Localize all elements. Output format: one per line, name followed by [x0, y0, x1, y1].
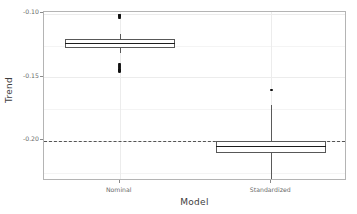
y-tick-label: -0.20	[14, 135, 39, 144]
median-line	[216, 146, 326, 148]
y-tick-label-text: -0.20	[14, 135, 39, 142]
y-tick-label: -0.10	[14, 8, 39, 17]
median-line	[65, 43, 175, 45]
gridline-major	[44, 77, 345, 78]
outlier-point	[118, 70, 121, 73]
gridline-minor	[44, 109, 345, 110]
x-axis-title: Model	[43, 197, 346, 207]
gridline-major	[44, 14, 345, 15]
whisker-upper	[271, 105, 272, 141]
x-tick-mark	[270, 180, 271, 183]
x-tick-label: Standardized	[225, 186, 315, 193]
whisker-lower	[120, 48, 121, 53]
x-tick-mark	[119, 180, 120, 183]
boxplot-figure: Trend -0.10-0.15-0.20 NominalStandardize…	[0, 0, 357, 214]
y-axis-title: Trend	[2, 0, 16, 180]
y-axis-title-label: Trend	[4, 77, 14, 103]
y-tick-label: -0.15	[14, 72, 39, 81]
y-tick-label-text: -0.15	[14, 72, 39, 79]
gridline-minor	[44, 173, 345, 174]
x-tick-label: Nominal	[74, 186, 164, 193]
whisker-lower	[271, 153, 272, 180]
y-tick-label-text: -0.10	[14, 8, 39, 15]
plot-panel	[43, 11, 346, 180]
